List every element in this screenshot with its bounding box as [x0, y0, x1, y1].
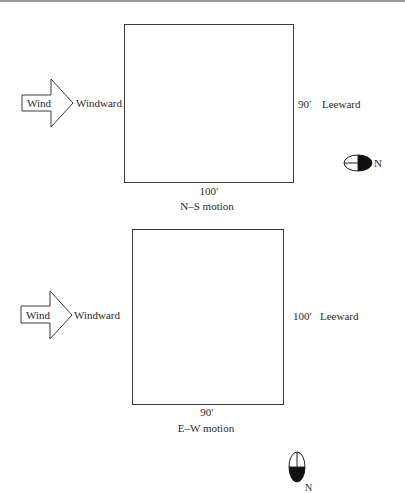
compass-east-icon — [344, 155, 372, 171]
caption-ew-motion: E–W motion — [178, 422, 234, 435]
windward-label: Windward — [76, 97, 122, 110]
side-dimension-label: 100′ — [293, 310, 312, 323]
building-outline-ew — [133, 230, 284, 405]
bottom-dimension-label: 90′ — [200, 406, 213, 419]
windward-label: Windward — [74, 309, 120, 322]
wind-label: Wind — [26, 309, 50, 322]
leeward-label: Leeward — [322, 98, 360, 111]
building-outline-ns — [125, 25, 294, 183]
caption-ns-motion: N–S motion — [180, 200, 233, 213]
diagram-canvas — [0, 0, 405, 494]
wind-label: Wind — [27, 97, 51, 110]
compass-north-label: N — [305, 481, 312, 494]
leeward-label: Leeward — [320, 310, 358, 323]
bottom-dimension-label: 100′ — [200, 185, 219, 198]
side-dimension-label: 90′ — [298, 98, 311, 111]
compass-north-label: N — [374, 157, 382, 170]
compass-south-icon — [289, 452, 305, 482]
